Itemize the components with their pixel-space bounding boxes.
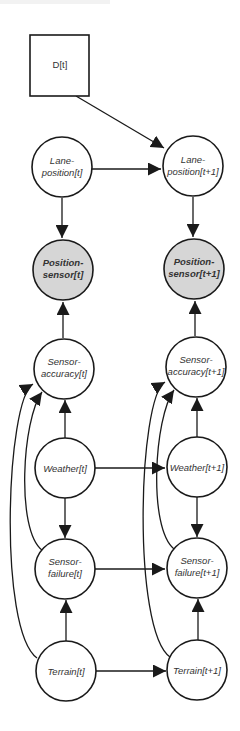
node-label-line2: failure[t+1] — [175, 567, 220, 578]
node-label: Terrain[t+1] — [173, 665, 221, 676]
node-position-sensor-t1: Position- sensor[t+1] — [164, 239, 224, 299]
node-weather-t: Weather[t] — [35, 438, 95, 498]
node-label-line2: position[t+1] — [166, 166, 219, 177]
node-label-line2: sensor[t+1] — [168, 268, 220, 279]
node-sensor-failure-t1: Sensor- failure[t+1] — [167, 538, 227, 598]
bayesian-network-diagram: D[t] Lane- position[t] Lane- position[t+… — [0, 0, 240, 731]
node-label-line2: accuracy[t] — [41, 368, 87, 379]
node-sensor-accuracy-t1: Sensor- accuracy[t+1] — [166, 337, 226, 397]
node-label: Weather[t] — [43, 463, 87, 474]
node-label-line2: failure[t] — [48, 568, 82, 579]
node-label-line1: Sensor- — [48, 556, 81, 567]
node-label-line1: Position- — [43, 257, 84, 268]
node-label-line1: Sensor- — [47, 356, 80, 367]
node-label-line1: Position- — [174, 256, 215, 267]
edge-d-to-lane-t1 — [76, 96, 164, 148]
node-label-line1: Lane- — [50, 155, 74, 166]
top-cropped-text-strip — [0, 0, 110, 4]
node-label-line2: accuracy[t+1] — [168, 366, 225, 377]
node-label: Weather[t+1] — [170, 462, 225, 473]
node-terrain-t1: Terrain[t+1] — [167, 640, 227, 700]
node-label: D[t] — [53, 59, 68, 70]
node-label: Terrain[t] — [47, 666, 84, 677]
node-label-line1: Lane- — [181, 154, 205, 165]
node-position-sensor-t: Position- sensor[t] — [33, 240, 93, 300]
node-weather-t1: Weather[t+1] — [167, 437, 227, 497]
edge-terrain-t-to-acc-t — [10, 384, 37, 658]
node-label-line1: Sensor- — [179, 354, 212, 365]
edge-terrain-t1-to-acc-t1 — [143, 382, 170, 657]
node-lane-position-t1: Lane- position[t+1] — [163, 136, 223, 196]
node-sensor-accuracy-t: Sensor- accuracy[t] — [34, 339, 94, 399]
node-sensor-failure-t: Sensor- failure[t] — [35, 539, 95, 599]
node-label-line1: Sensor- — [180, 555, 213, 566]
node-d-t: D[t] — [30, 35, 89, 96]
node-lane-position-t: Lane- position[t] — [32, 137, 92, 197]
node-terrain-t: Terrain[t] — [36, 641, 96, 701]
node-label-line2: position[t] — [41, 167, 83, 178]
node-label-line2: sensor[t] — [43, 269, 84, 280]
